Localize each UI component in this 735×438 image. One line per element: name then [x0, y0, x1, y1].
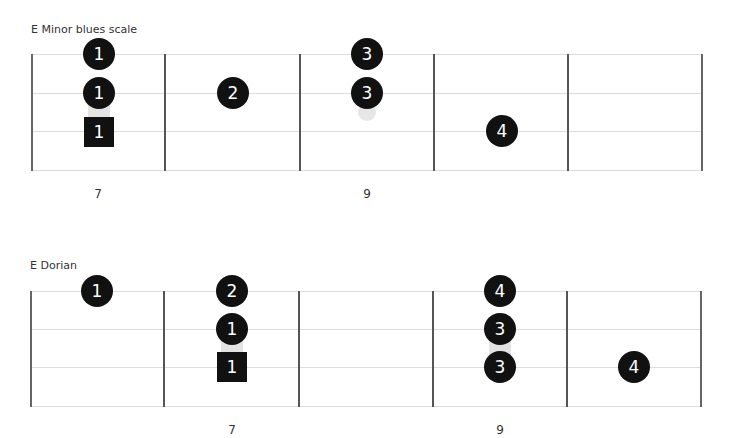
fret-line — [700, 291, 702, 407]
fret-line — [566, 291, 568, 407]
string-line — [30, 367, 702, 368]
finger-note: 1 — [83, 77, 115, 109]
finger-note: 1 — [216, 313, 248, 345]
finger-note: 1 — [83, 38, 115, 70]
fret-line — [298, 291, 300, 407]
string-line — [30, 406, 702, 407]
finger-note: 4 — [618, 351, 650, 383]
finger-note: 1 — [81, 275, 113, 307]
fret-number: 7 — [217, 423, 247, 437]
finger-note: 2 — [216, 275, 248, 307]
string-line — [30, 291, 702, 292]
root-note: 1 — [217, 352, 247, 382]
string-line — [30, 329, 702, 330]
fret-number: 9 — [485, 423, 515, 437]
finger-note: 2 — [217, 77, 249, 109]
fret-line — [432, 291, 434, 407]
finger-note: 3 — [484, 351, 516, 383]
fret-line — [163, 291, 165, 407]
finger-note: 3 — [351, 77, 383, 109]
finger-note: 4 — [484, 275, 516, 307]
diagram-title: E Dorian — [30, 259, 77, 272]
root-note: 1 — [84, 117, 114, 147]
finger-note: 3 — [484, 313, 516, 345]
finger-note: 3 — [351, 38, 383, 70]
fret-line — [30, 291, 32, 407]
finger-note: 4 — [486, 115, 518, 147]
